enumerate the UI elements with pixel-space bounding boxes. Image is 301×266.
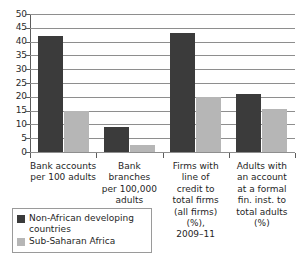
y-tick-label: 25 bbox=[0, 79, 27, 88]
x-category-label-line: Bank branches bbox=[109, 161, 151, 182]
legend-item-non-african-developing-countries: Non-African developingcountries bbox=[17, 213, 147, 235]
x-category-label-line: fin. inst. to bbox=[238, 195, 286, 205]
x-category-label-line: line of bbox=[182, 172, 210, 182]
y-tick-mark bbox=[25, 138, 30, 139]
y-tick-label: 30 bbox=[0, 65, 27, 74]
x-tick-mark bbox=[163, 153, 164, 158]
x-tick-mark bbox=[96, 153, 97, 158]
x-category-label-line: (%) bbox=[254, 218, 270, 228]
y-tick-mark bbox=[25, 83, 30, 84]
legend-swatch-icon-light bbox=[17, 238, 25, 246]
x-category-label-line: (%), bbox=[186, 218, 204, 228]
legend-label-series-1: Non-African developingcountries bbox=[29, 213, 134, 235]
chart-legend: Non-African developingcountries Sub-Saha… bbox=[12, 208, 152, 253]
x-category-label-line: credit to bbox=[177, 184, 215, 194]
y-tick-mark bbox=[25, 124, 30, 125]
y-tick-label: 50 bbox=[0, 10, 27, 19]
bar-groups bbox=[30, 14, 295, 152]
legend-swatch-icon-dark bbox=[17, 215, 25, 223]
bar bbox=[262, 109, 287, 152]
y-tick-label: 40 bbox=[0, 37, 27, 46]
y-tick-mark bbox=[25, 28, 30, 29]
bar bbox=[104, 127, 129, 152]
x-tick-mark bbox=[229, 153, 230, 158]
x-category-label-line: Bank accounts bbox=[30, 161, 96, 171]
x-category-label: Firms withline ofcredit tototal firms(al… bbox=[163, 161, 229, 241]
x-category-label-line: Firms with bbox=[173, 161, 219, 171]
x-category-label-line: Adults with bbox=[237, 161, 287, 171]
x-category-label-line: per 100 adults bbox=[30, 172, 96, 182]
y-tick-mark bbox=[25, 97, 30, 98]
x-tick-mark bbox=[30, 153, 31, 158]
bar bbox=[38, 36, 63, 152]
y-tick-mark bbox=[25, 42, 30, 43]
y-tick-mark bbox=[25, 111, 30, 112]
bar bbox=[130, 145, 155, 152]
y-tick-label: 10 bbox=[0, 120, 27, 129]
y-tick-label: 35 bbox=[0, 51, 27, 60]
y-tick-label: 15 bbox=[0, 106, 27, 115]
y-tick-mark bbox=[25, 69, 30, 70]
y-tick-mark bbox=[25, 14, 30, 15]
x-category-label-line: an account bbox=[237, 172, 287, 182]
x-category-label-line: at a formal bbox=[237, 184, 286, 194]
x-category-label-line: total firms bbox=[173, 195, 219, 205]
bar-chart-figure: 05101520253035404550 Bank accountsper 10… bbox=[0, 0, 301, 266]
x-category-label: Bank accountsper 100 adults bbox=[30, 161, 96, 184]
plot-area bbox=[30, 14, 295, 152]
y-tick-label: 45 bbox=[0, 23, 27, 32]
x-category-label-line: total adults bbox=[236, 207, 287, 217]
y-tick-label: 20 bbox=[0, 92, 27, 101]
x-category-label-line: per 100,000 bbox=[102, 184, 157, 194]
x-category-label: Adults withan accountat a formalfin. ins… bbox=[229, 161, 295, 229]
legend-item-sub-saharan-africa: Sub-Saharan Africa bbox=[17, 236, 147, 247]
legend-label-series-2: Sub-Saharan Africa bbox=[29, 236, 115, 247]
y-axis-tick-labels: 05101520253035404550 bbox=[0, 0, 27, 175]
y-tick-label: 0 bbox=[0, 148, 27, 157]
x-tick-mark bbox=[295, 153, 296, 158]
x-category-label-line: 2009–11 bbox=[176, 229, 215, 239]
x-category-label-line: adults bbox=[116, 195, 144, 205]
x-category-label: Bank branchesper 100,000adults bbox=[96, 161, 162, 207]
y-tick-mark bbox=[25, 55, 30, 56]
plot-wrapper: 05101520253035404550 bbox=[0, 0, 301, 175]
bar bbox=[196, 97, 221, 152]
bar bbox=[170, 33, 195, 152]
bar bbox=[64, 111, 89, 152]
bar bbox=[236, 94, 261, 152]
x-category-label-line: (all firms) bbox=[174, 207, 217, 217]
y-tick-label: 5 bbox=[0, 134, 27, 143]
